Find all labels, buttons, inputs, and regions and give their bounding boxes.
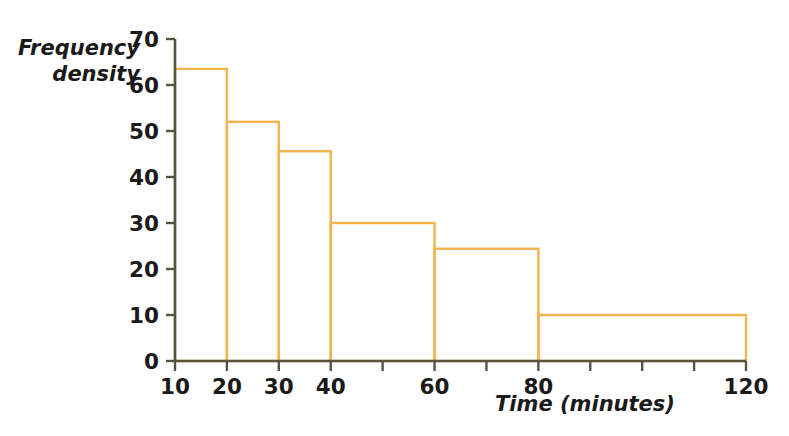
axis-ticks: [166, 39, 746, 371]
histogram-bar: [435, 249, 539, 361]
y-tick-label: 0: [144, 349, 159, 374]
y-tick-label: 20: [129, 257, 159, 282]
x-tick-label: 20: [212, 374, 242, 399]
axis-tick-labels: 010203040506070102030406080120: [129, 27, 768, 399]
x-tick-label: 40: [316, 374, 346, 399]
histogram-bar: [279, 151, 331, 361]
y-tick-label: 40: [129, 165, 159, 190]
histogram-bars: [175, 69, 746, 361]
y-tick-label: 30: [129, 211, 159, 236]
x-tick-label: 10: [160, 374, 190, 399]
histogram-bar: [331, 223, 435, 361]
x-tick-label: 120: [724, 374, 769, 399]
x-tick-label: 80: [523, 374, 553, 399]
y-tick-label: 50: [129, 119, 159, 144]
x-tick-label: 60: [420, 374, 450, 399]
chart-axes: [175, 39, 746, 361]
histogram-bar: [538, 315, 746, 361]
x-tick-label: 30: [264, 374, 294, 399]
histogram-plot: 010203040506070102030406080120: [0, 0, 789, 436]
histogram-figure: Frequency density Time (minutes) 0102030…: [0, 0, 789, 436]
y-tick-label: 70: [129, 27, 159, 52]
y-tick-label: 60: [129, 73, 159, 98]
histogram-bar: [227, 122, 279, 361]
histogram-bar: [175, 69, 227, 361]
y-tick-label: 10: [129, 303, 159, 328]
